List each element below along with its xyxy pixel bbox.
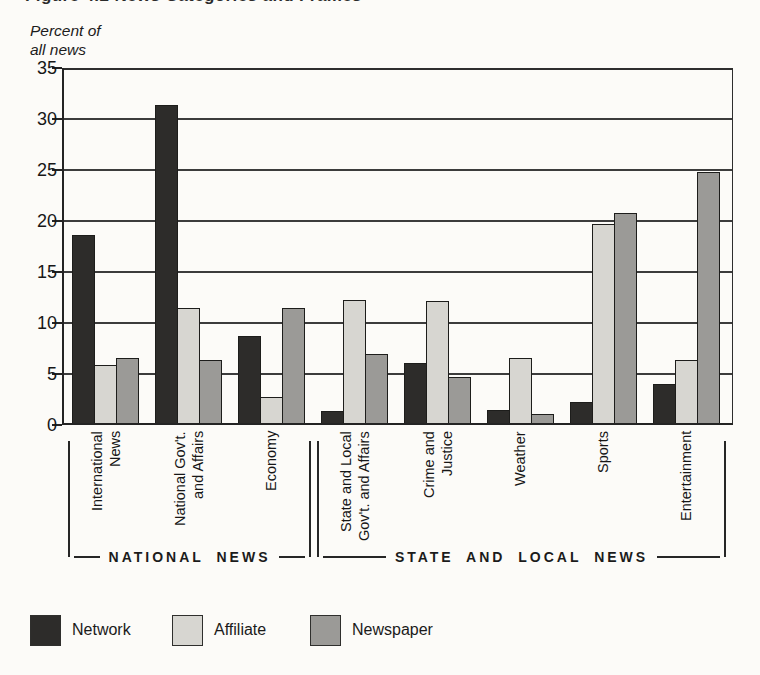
- bar-affiliate-economy: [260, 397, 283, 425]
- x-axis-baseline: [62, 423, 733, 426]
- bar-affiliate-international-news: [94, 365, 117, 425]
- y-axis-unit-label: Percent of all news: [30, 21, 101, 59]
- legend-swatch-affiliate: [172, 615, 203, 646]
- y-tick-label-5: 5: [14, 364, 57, 385]
- bar-newspaper-entertainment: [697, 172, 720, 425]
- bar-newspaper-state-and-local-gov-t-and-affairs: [365, 354, 388, 425]
- bar-network-national-gov-t-and-affairs: [155, 105, 178, 425]
- legend-label-newspaper: Newspaper: [352, 621, 433, 639]
- bar-network-international-news: [72, 235, 95, 425]
- group-bracket-label-national-news: NATIONAL NEWS: [109, 549, 271, 565]
- y-tick-label-15: 15: [14, 262, 57, 283]
- legend-label-network: Network: [72, 621, 131, 639]
- legend-item-network: Network: [30, 613, 131, 647]
- bar-network-entertainment: [653, 384, 676, 425]
- plot-top-border: [62, 68, 733, 70]
- bar-network-economy: [238, 336, 261, 425]
- bar-affiliate-entertainment: [675, 360, 698, 425]
- bar-newspaper-crime-and-justice: [448, 377, 471, 425]
- bracket-line-right: [279, 556, 305, 558]
- bar-network-crime-and-justice: [404, 363, 427, 425]
- y-tick-label-35: 35: [14, 58, 57, 79]
- bracket-line-left: [74, 556, 100, 558]
- bracket-line-left: [323, 556, 386, 558]
- legend-swatch-network: [30, 615, 61, 646]
- bar-affiliate-crime-and-justice: [426, 301, 449, 425]
- figure-page: Figure 4.2 News Categories and Frames Pe…: [0, 0, 760, 675]
- y-axis-unit-label-line2: all news: [30, 41, 86, 58]
- legend: NetworkAffiliateNewspaper: [0, 613, 760, 649]
- y-axis-line: [62, 68, 64, 425]
- plot-right-border: [732, 68, 734, 425]
- y-axis-unit-label-line1: Percent of: [30, 22, 101, 39]
- group-bracket-row-national-news: NATIONAL NEWS: [74, 546, 305, 568]
- legend-item-affiliate: Affiliate: [172, 613, 266, 647]
- bar-affiliate-national-gov-t-and-affairs: [177, 308, 200, 425]
- legend-item-newspaper: Newspaper: [310, 613, 433, 647]
- y-tick-label-20: 20: [14, 211, 57, 232]
- plot-area: [62, 68, 733, 425]
- bar-affiliate-weather: [509, 358, 532, 425]
- bar-affiliate-state-and-local-gov-t-and-affairs: [343, 300, 366, 425]
- y-tick-label-10: 10: [14, 313, 57, 334]
- legend-label-affiliate: Affiliate: [214, 621, 266, 639]
- group-bracket-state-and-local-news: STATE AND LOCAL NEWS: [317, 441, 726, 557]
- bar-newspaper-economy: [282, 308, 305, 425]
- group-bracket-national-news: NATIONAL NEWS: [68, 441, 311, 557]
- group-bracket-label-state-and-local-news: STATE AND LOCAL NEWS: [395, 549, 648, 565]
- bar-newspaper-national-gov-t-and-affairs: [199, 360, 222, 425]
- y-tick-label-30: 30: [14, 109, 57, 130]
- y-tick-label-25: 25: [14, 160, 57, 181]
- legend-swatch-newspaper: [310, 615, 341, 646]
- bar-newspaper-sports: [614, 213, 637, 425]
- group-bracket-row-state-and-local-news: STATE AND LOCAL NEWS: [323, 546, 720, 568]
- figure-cropped-title: Figure 4.2 News Categories and Frames: [25, 0, 362, 6]
- bar-newspaper-international-news: [116, 358, 139, 425]
- bar-affiliate-sports: [592, 224, 615, 425]
- bracket-line-right: [657, 556, 720, 558]
